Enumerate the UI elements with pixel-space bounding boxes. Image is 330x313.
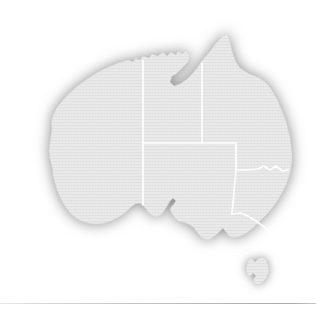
footer-divider-rule — [0, 303, 316, 304]
australia-map — [0, 0, 330, 313]
region-tasmania — [246, 257, 269, 285]
map-land-layer — [49, 33, 292, 285]
map-figure: Map of Australia — [0, 0, 330, 313]
